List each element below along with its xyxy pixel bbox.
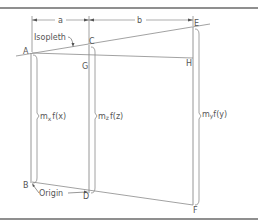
- scale-x-label: mxf(x): [40, 112, 66, 122]
- brace-y: [195, 29, 201, 205]
- point-c-label: C: [89, 37, 95, 46]
- line-a-h: [32, 53, 193, 58]
- point-g-label: G: [82, 62, 88, 71]
- point-b-label: B: [23, 181, 29, 190]
- origin-label: Origin: [39, 189, 63, 198]
- point-a-label: A: [23, 47, 29, 56]
- scale-y-label: myf(y): [202, 110, 227, 120]
- brace-x: [33, 55, 39, 183]
- isopleth-label: Isopleth: [34, 33, 66, 42]
- point-f-label: F: [193, 206, 198, 215]
- dimension-b-label: b: [137, 16, 142, 25]
- point-e-label: E: [194, 19, 199, 28]
- point-d-label: D: [83, 192, 89, 201]
- brace-z: [91, 47, 97, 193]
- dimension-a-label: a: [58, 16, 63, 25]
- nomograph-diagram: a b mxf(x) mzf(z) myf(y) Isopleth Origin…: [0, 0, 261, 223]
- point-h-label: H: [186, 59, 192, 68]
- dimension-b: b: [89, 16, 193, 26]
- scale-z-label: mzf(z): [98, 112, 123, 121]
